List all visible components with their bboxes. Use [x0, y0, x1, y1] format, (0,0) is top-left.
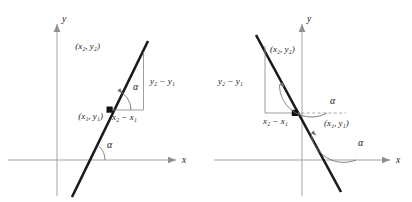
- rise-label-right: y₂ − y₁: [217, 76, 243, 86]
- y-axis-arrowhead-left: [54, 24, 61, 32]
- y-axis-label-right: y: [306, 14, 312, 24]
- rise-label-left: y₂ − y₁: [149, 76, 175, 86]
- y-axis-arrowhead-right: [299, 24, 306, 32]
- left-diagram: (x₂, y₂) (x₁, y₁) y₂ − y₁ x₂ − x₁ α α x …: [0, 0, 206, 202]
- angle-arc-arrowhead-left: [118, 88, 123, 93]
- x-axis-arrowhead-left: [168, 157, 176, 164]
- x-axis-label-right: x: [395, 155, 401, 165]
- slope-angle-figure: (x₂, y₂) (x₁, y₁) y₂ − y₁ x₂ − x₁ α α x …: [0, 0, 412, 202]
- angle-arc-axis-arrowhead-right: [311, 131, 316, 136]
- angle-label-at-point-right: α: [330, 95, 336, 106]
- plotted-line-right: [256, 35, 341, 192]
- x-axis-arrowhead-right: [382, 157, 390, 164]
- point2-label-left: (x₂, y₂): [75, 41, 100, 51]
- x-axis-label-left: x: [181, 155, 187, 165]
- angle-arc-at-axis-left: [99, 146, 105, 160]
- run-label-left: x₂ − x₁: [111, 112, 137, 122]
- right-diagram: (x₂, y₂) (x₁, y₁) y₂ − y₁ x₂ − x₁ α α x …: [206, 0, 412, 202]
- point1-label-right: (x₁, y₁): [324, 118, 349, 128]
- angle-label-at-axis-right: α: [358, 137, 364, 148]
- angle-label-at-point-left: α: [133, 81, 139, 92]
- y-axis-label-left: y: [61, 14, 67, 24]
- run-label-right: x₂ − x₁: [262, 116, 288, 126]
- point2-label-right: (x₂, y₂): [270, 44, 295, 54]
- point1-label-left: (x₁, y₁): [78, 111, 103, 121]
- angle-label-at-axis-left: α: [107, 139, 113, 150]
